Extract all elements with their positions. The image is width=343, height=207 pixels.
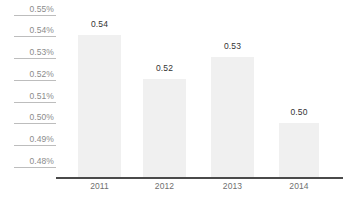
gridline <box>14 58 56 59</box>
gridline <box>14 80 56 81</box>
y-axis-tick: 0.53% <box>0 45 58 59</box>
y-axis-tick: 0.49% <box>0 132 58 146</box>
x-axis-category-label: 2012 <box>143 181 186 191</box>
y-axis-tick: 0.51% <box>0 89 58 103</box>
y-axis-tick: 0.48% <box>0 154 58 168</box>
gridline <box>14 123 56 124</box>
gridline <box>14 167 56 168</box>
bar-value-label: 0.54 <box>78 19 121 29</box>
bar-group: 0.52 <box>143 0 186 179</box>
y-axis-tick-label: 0.54% <box>29 25 54 35</box>
bar-group: 0.50 <box>279 0 319 179</box>
x-axis-line <box>56 177 343 179</box>
y-axis-tick: 0.55% <box>0 2 58 16</box>
gridline <box>14 36 56 37</box>
x-axis-category-label: 2014 <box>279 181 319 191</box>
y-axis-tick-label: 0.49% <box>29 134 54 144</box>
y-axis-tick-label: 0.50% <box>29 112 54 122</box>
x-axis-category-label: 2013 <box>211 181 254 191</box>
bar-value-label: 0.53 <box>211 41 254 51</box>
bar-group: 0.53 <box>211 0 254 179</box>
bar-value-label: 0.52 <box>143 63 186 73</box>
y-axis-tick: 0.54% <box>0 23 58 37</box>
y-axis: 0.55% 0.54% 0.53% 0.52% 0.51% 0.50% 0.49… <box>0 0 58 207</box>
y-axis-tick-label: 0.51% <box>29 91 54 101</box>
plot-area: 0.54 0.52 0.53 0.50 <box>58 0 343 179</box>
y-axis-tick-label: 0.48% <box>29 156 54 166</box>
bar-chart: 0.55% 0.54% 0.53% 0.52% 0.51% 0.50% 0.49… <box>0 0 343 207</box>
bar[interactable] <box>211 57 254 179</box>
x-axis: 2011 2012 2013 2014 <box>58 181 343 197</box>
y-axis-tick-label: 0.53% <box>29 47 54 57</box>
gridline <box>14 15 56 16</box>
gridline <box>14 102 56 103</box>
bar-group: 0.54 <box>78 0 121 179</box>
y-axis-tick: 0.50% <box>0 110 58 124</box>
x-axis-category-label: 2011 <box>78 181 121 191</box>
bar[interactable] <box>143 79 186 179</box>
bar-value-label: 0.50 <box>279 107 319 117</box>
y-axis-tick: 0.52% <box>0 67 58 81</box>
bar[interactable] <box>279 123 319 179</box>
gridline <box>14 145 56 146</box>
bars-layer: 0.54 0.52 0.53 0.50 <box>58 0 343 179</box>
bar[interactable] <box>78 35 121 179</box>
y-axis-tick-label: 0.52% <box>29 69 54 79</box>
y-axis-tick-label: 0.55% <box>29 4 54 14</box>
